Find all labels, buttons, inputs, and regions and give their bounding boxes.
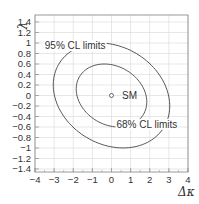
- y-tick-label: 0.2: [18, 79, 31, 90]
- x-tick-label: 4: [185, 174, 190, 185]
- x-tick-label: 2: [147, 174, 152, 185]
- contour-chart: −4−3−2−101234 1.41.210.80.60.40.20−0.2−0…: [0, 0, 199, 204]
- y-tick-labels: 1.41.210.80.60.40.20−0.2−0.4−0.6−0.8−1−1…: [12, 16, 31, 174]
- x-tick-label: 0: [109, 174, 114, 185]
- y-tick-label: −0.4: [12, 111, 31, 122]
- y-tick-label: −1: [20, 142, 31, 153]
- x-tick-label: −1: [87, 174, 98, 185]
- y-tick-label: −0.2: [12, 100, 31, 111]
- x-axis-title: Δκ: [177, 185, 195, 199]
- y-axis-title: λ: [16, 22, 30, 31]
- y-tick-label: 0: [26, 90, 31, 101]
- y-tick-label: −1.2: [12, 153, 31, 164]
- x-tick-label: −3: [49, 174, 60, 185]
- x-tick-label: −2: [68, 174, 79, 185]
- y-tick-label: 1: [26, 37, 31, 48]
- sm-label: SM: [122, 90, 137, 101]
- x-tick-labels: −4−3−2−101234: [30, 174, 191, 185]
- x-tick-label: 1: [128, 174, 133, 185]
- sm-point-marker: [110, 94, 114, 98]
- data-points: [110, 94, 114, 98]
- y-tick-label: 0.8: [18, 48, 31, 59]
- y-tick-label: 0.4: [18, 69, 31, 80]
- contour-label: 95% CL limits: [45, 40, 106, 51]
- x-tick-label: 3: [166, 174, 171, 185]
- y-tick-label: −0.6: [12, 121, 31, 132]
- x-tick-label: −4: [30, 174, 41, 185]
- y-tick-label: 0.6: [18, 58, 31, 69]
- y-tick-label: −0.8: [12, 132, 31, 143]
- y-tick-label: −1.4: [12, 163, 31, 174]
- contour-label: 68% CL limits: [116, 119, 177, 130]
